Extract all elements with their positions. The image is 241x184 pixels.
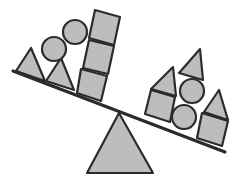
left-square-middle: [83, 40, 114, 74]
left-circle-lower: [42, 37, 66, 61]
right-circle-upper: [180, 79, 204, 103]
left-square-top: [89, 10, 120, 45]
right-circle-lower: [172, 105, 196, 129]
right-triangle-top: [179, 49, 203, 80]
balance-scale-diagram: [0, 0, 241, 184]
left-circle-upper: [63, 20, 87, 44]
